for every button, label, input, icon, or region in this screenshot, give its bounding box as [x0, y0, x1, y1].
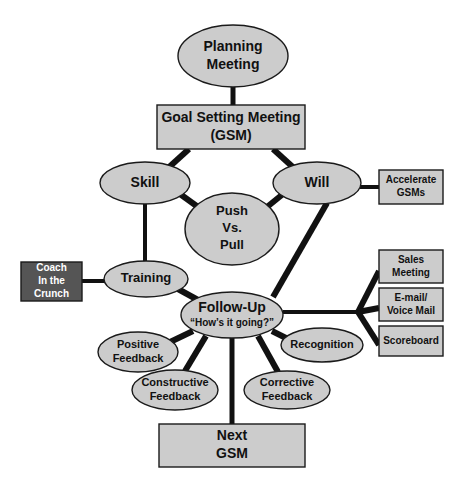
node-label-goal-setting-meeting-line-1: (GSM) — [210, 127, 251, 143]
node-constructive-feedback[interactable]: ConstructiveFeedback — [132, 370, 218, 410]
node-recognition[interactable]: Recognition — [281, 328, 363, 362]
node-accelerate-gsms[interactable]: AccelerateGSMs — [379, 170, 443, 204]
node-label-sales-meeting-line-0: Sales — [398, 254, 425, 265]
node-label-planning-meeting-line-1: Meeting — [207, 56, 260, 72]
node-label-next-gsm-line-0: Next — [217, 427, 248, 443]
node-label-push-vs-pull-line-0: Push — [216, 203, 248, 218]
node-scoreboard[interactable]: Scoreboard — [379, 326, 443, 356]
node-label-scoreboard-line-0: Scoreboard — [383, 335, 439, 346]
node-push-vs-pull[interactable]: PushVs.Pull — [185, 193, 279, 265]
node-coach-in-the-crunch[interactable]: CoachIn theCrunch — [21, 262, 82, 301]
node-label-coach-in-the-crunch-line-0: Coach — [36, 262, 67, 273]
node-label-push-vs-pull-line-2: Pull — [220, 237, 244, 252]
node-label-positive-feedback-line-0: Positive — [117, 338, 159, 350]
node-skill[interactable]: Skill — [100, 162, 190, 204]
node-positive-feedback[interactable]: PositiveFeedback — [98, 332, 178, 372]
node-next-gsm[interactable]: NextGSM — [159, 424, 305, 467]
node-label-accelerate-gsms-line-0: Accelerate — [386, 174, 437, 185]
node-label-push-vs-pull-line-1: Vs. — [222, 220, 242, 235]
node-label-positive-feedback-line-1: Feedback — [113, 352, 165, 364]
node-label-follow-up-line-1: “How’s it going?” — [190, 317, 274, 328]
node-planning-meeting[interactable]: PlanningMeeting — [178, 25, 288, 87]
node-label-skill-line-0: Skill — [131, 174, 160, 190]
node-label-corrective-feedback-line-1: Feedback — [262, 390, 314, 402]
node-label-planning-meeting-line-0: Planning — [203, 38, 262, 54]
node-training[interactable]: Training — [104, 261, 188, 297]
node-label-will-line-0: Will — [305, 174, 330, 190]
node-label-constructive-feedback-line-0: Constructive — [141, 376, 208, 388]
node-label-next-gsm-line-1: GSM — [216, 445, 248, 461]
node-label-accelerate-gsms-line-1: GSMs — [397, 187, 426, 198]
node-goal-setting-meeting[interactable]: Goal Setting Meeting(GSM) — [157, 105, 305, 149]
node-follow-up[interactable]: Follow-Up“How’s it going?” — [181, 292, 283, 338]
goal-setting-coaching-diagram: PlanningMeetingGoal Setting Meeting(GSM)… — [0, 0, 459, 484]
node-will[interactable]: Will — [273, 162, 361, 204]
node-label-training-line-0: Training — [121, 270, 172, 285]
node-label-follow-up-line-0: Follow-Up — [198, 299, 266, 315]
node-label-email-voice-mail-line-1: Voice Mail — [387, 305, 435, 316]
node-sales-meeting[interactable]: SalesMeeting — [379, 250, 443, 283]
node-corrective-feedback[interactable]: CorrectiveFeedback — [244, 371, 330, 409]
node-label-recognition-line-0: Recognition — [290, 338, 354, 350]
node-label-sales-meeting-line-1: Meeting — [392, 267, 430, 278]
node-label-coach-in-the-crunch-line-1: In the — [38, 275, 65, 286]
node-label-goal-setting-meeting-line-0: Goal Setting Meeting — [161, 109, 300, 125]
node-email-voice-mail[interactable]: E-mail/Voice Mail — [379, 288, 443, 321]
node-label-coach-in-the-crunch-line-2: Crunch — [34, 288, 69, 299]
node-label-constructive-feedback-line-1: Feedback — [150, 390, 202, 402]
node-label-corrective-feedback-line-0: Corrective — [260, 376, 314, 388]
node-label-email-voice-mail-line-0: E-mail/ — [395, 292, 428, 303]
